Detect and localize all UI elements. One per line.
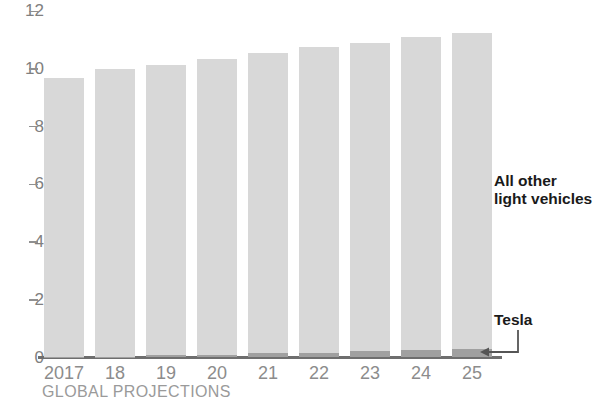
bar-segment-all-other-20 — [197, 59, 237, 355]
bar-segment-all-other-23 — [350, 43, 390, 351]
axis-footer-note: GLOBAL PROJECTIONS — [42, 383, 231, 401]
bar-segment-all-other-25 — [452, 33, 492, 349]
legend-label-all-other-line1: All other — [494, 172, 557, 189]
bar-segment-all-other-21 — [248, 53, 288, 353]
legend-label-tesla: Tesla — [494, 311, 533, 329]
bar-group-23 — [350, 43, 390, 357]
x-axis-tick-25: 25 — [442, 362, 502, 384]
bar-segment-tesla-20 — [197, 355, 237, 358]
bar-group-21 — [248, 53, 288, 357]
bar-chart: 121086420 20171819202122232425 GLOBAL PR… — [0, 0, 615, 406]
bar-group-18 — [95, 69, 135, 358]
bar-group-24 — [401, 37, 441, 357]
bar-segment-tesla-22 — [299, 353, 339, 358]
bar-group-22 — [299, 47, 339, 357]
bar-segment-all-other-22 — [299, 47, 339, 352]
bar-segment-tesla-24 — [401, 350, 441, 358]
bar-group-25 — [452, 33, 492, 358]
bar-segment-tesla-19 — [146, 355, 186, 357]
legend-label-all-other-line2: light vehicles — [494, 190, 592, 208]
bar-group-19 — [146, 65, 186, 358]
legend-label-all-other-light-vehicles: All other light vehicles — [494, 172, 592, 208]
bar-segment-all-other-24 — [401, 37, 441, 350]
bar-segment-all-other-19 — [146, 65, 186, 356]
bar-segment-tesla-21 — [248, 353, 288, 357]
bar-segment-tesla-23 — [350, 351, 390, 357]
bar-group-2017 — [44, 78, 84, 358]
bar-segment-tesla-18 — [95, 357, 135, 358]
tesla-callout-arrow-icon — [478, 330, 528, 362]
bar-segment-all-other-2017 — [44, 78, 84, 358]
bar-group-20 — [197, 59, 237, 358]
bar-segment-all-other-18 — [95, 69, 135, 357]
